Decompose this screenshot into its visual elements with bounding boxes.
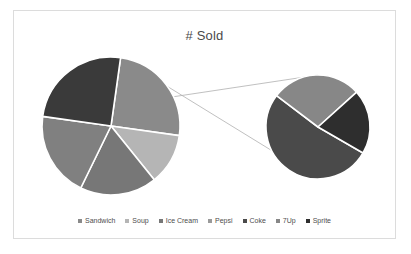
legend-item-label: Soup <box>132 217 148 224</box>
pie-of-pie-plot <box>14 11 396 239</box>
legend-item-label: Coke <box>250 217 266 224</box>
legend-swatch-icon <box>208 219 212 223</box>
legend-item-coke[interactable]: Coke <box>243 217 266 224</box>
primary-pie[interactable] <box>42 57 180 195</box>
legend-item-7up[interactable]: 7Up <box>276 217 296 224</box>
legend-item-label: Ice Cream <box>166 217 198 224</box>
legend-item-label: Sprite <box>313 217 331 224</box>
legend-swatch-icon <box>78 219 82 223</box>
chart-legend: SandwichSoupIce CreamPepsiCoke7UpSprite <box>14 217 395 224</box>
legend-swatch-icon <box>159 219 163 223</box>
legend-swatch-icon <box>276 219 280 223</box>
legend-swatch-icon <box>125 219 129 223</box>
legend-item-sandwich[interactable]: Sandwich <box>78 217 115 224</box>
legend-item-sprite[interactable]: Sprite <box>306 217 331 224</box>
legend-item-ice-cream[interactable]: Ice Cream <box>159 217 198 224</box>
primary-slice-sandwich[interactable] <box>111 58 180 136</box>
legend-swatch-icon <box>306 219 310 223</box>
legend-item-label: Pepsi <box>215 217 233 224</box>
primary-slice-other[interactable] <box>43 57 121 126</box>
legend-item-label: Sandwich <box>85 217 115 224</box>
chart-frame[interactable]: # Sold SandwichSoupIce CreamPepsiCoke7Up… <box>13 10 396 239</box>
secondary-pie[interactable] <box>266 75 370 179</box>
legend-item-soup[interactable]: Soup <box>125 217 148 224</box>
legend-item-label: 7Up <box>283 217 296 224</box>
legend-swatch-icon <box>243 219 247 223</box>
legend-item-pepsi[interactable]: Pepsi <box>208 217 233 224</box>
